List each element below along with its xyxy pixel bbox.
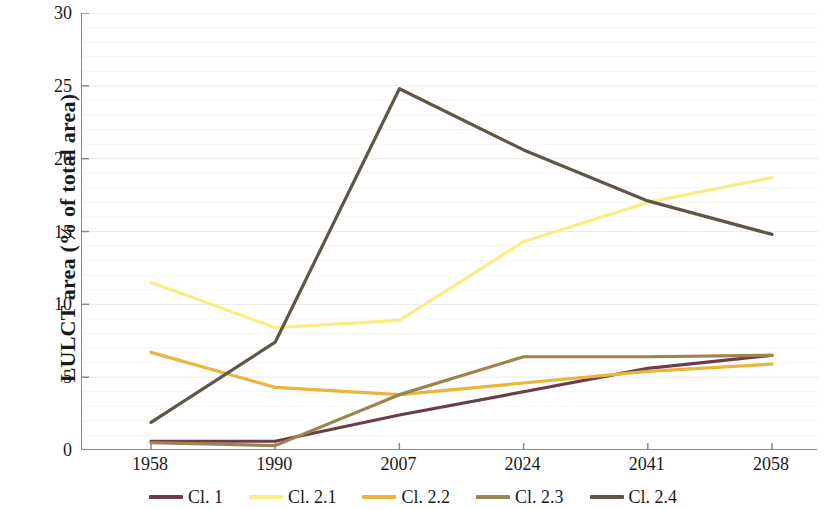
x-axis-tick-labels: 195819902007202420412058 xyxy=(81,455,817,481)
x-tick-label: 2041 xyxy=(602,455,692,475)
series-line-cl-2-2 xyxy=(151,352,772,394)
x-tick-label: 2024 xyxy=(478,455,568,475)
x-tick-label: 1958 xyxy=(105,455,195,475)
legend-item[interactable]: Cl. 2.4 xyxy=(590,488,678,506)
legend-label: Cl. 2.2 xyxy=(401,488,450,506)
series-line-cl-2-1 xyxy=(151,178,772,328)
legend-label: Cl. 1 xyxy=(188,488,223,506)
legend-swatch-icon xyxy=(249,495,283,499)
chart-legend: Cl. 1Cl. 2.1Cl. 2.2Cl. 2.3Cl. 2.4 xyxy=(0,485,826,509)
x-tick-label: 2058 xyxy=(726,455,816,475)
y-tick-label: 0 xyxy=(26,441,72,459)
y-tick-label: 25 xyxy=(26,77,72,95)
legend-label: Cl. 2.1 xyxy=(288,488,337,506)
legend-swatch-icon xyxy=(149,495,183,499)
legend-label: Cl. 2.3 xyxy=(515,488,564,506)
plot-svg xyxy=(82,13,818,450)
legend-swatch-icon xyxy=(362,495,396,499)
legend-item[interactable]: Cl. 1 xyxy=(149,488,223,506)
series-line-cl-2-4 xyxy=(151,89,772,423)
x-tick-label: 2007 xyxy=(353,455,443,475)
y-tick-label: 10 xyxy=(26,295,72,313)
y-axis-tick-labels: 051015202530 xyxy=(18,0,72,463)
y-tick-label: 15 xyxy=(26,223,72,241)
y-tick-label: 5 xyxy=(26,368,72,386)
y-tick-label: 30 xyxy=(26,4,72,22)
legend-swatch-icon xyxy=(476,495,510,499)
legend-item[interactable]: Cl. 2.2 xyxy=(362,488,450,506)
y-tick-label: 20 xyxy=(26,150,72,168)
x-tick-label: 1990 xyxy=(229,455,319,475)
legend-label: Cl. 2.4 xyxy=(629,488,678,506)
legend-swatch-icon xyxy=(590,495,624,499)
plot-area xyxy=(81,13,817,450)
line-chart: LULCT area (% of total area) 05101520253… xyxy=(0,0,826,509)
legend-item[interactable]: Cl. 2.3 xyxy=(476,488,564,506)
legend-item[interactable]: Cl. 2.1 xyxy=(249,488,337,506)
